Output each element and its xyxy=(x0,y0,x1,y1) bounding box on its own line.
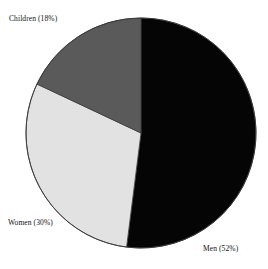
pie-label-women: Women (30%) xyxy=(8,219,53,227)
pie-slices xyxy=(26,18,256,248)
pie-chart: Children (18%) Women (30%) Men (52%) xyxy=(0,0,268,269)
pie-slice-men[interactable] xyxy=(127,18,256,248)
pie-chart-canvas xyxy=(0,0,268,269)
pie-label-children: Children (18%) xyxy=(9,15,57,23)
pie-label-men: Men (52%) xyxy=(203,245,238,253)
